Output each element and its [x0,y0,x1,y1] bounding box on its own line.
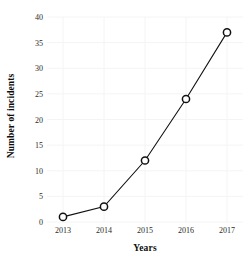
series-plot [47,17,243,222]
line-chart: Number of incidents 0510152025303540 201… [0,0,251,263]
y-axis-tick-labels: 0510152025303540 [22,0,46,240]
y-axis-title-label: Number of incidents [6,74,16,159]
y-tick-label: 5 [39,192,43,201]
data-point-marker [141,157,148,164]
y-tick-label: 15 [35,141,43,150]
y-tick-label: 20 [35,115,43,124]
data-point-marker [182,95,189,102]
y-tick-label: 0 [39,218,43,227]
x-tick-label: 2013 [55,226,71,235]
x-tick-label: 2015 [137,226,153,235]
data-point-marker [59,213,66,220]
gridlines [47,17,243,222]
x-tick-label: 2016 [178,226,194,235]
x-axis-tick-labels: 20132014201520162017 [47,226,243,240]
y-tick-label: 40 [35,13,43,22]
y-axis-title: Number of incidents [0,0,22,232]
plot-area [47,17,243,222]
y-tick-label: 30 [35,64,43,73]
x-tick-label: 2017 [219,226,235,235]
y-tick-label: 10 [35,166,43,175]
x-tick-label: 2014 [96,226,112,235]
x-axis-title: Years [47,243,243,253]
y-tick-label: 25 [35,89,43,98]
data-point-marker [100,203,107,210]
data-point-marker [223,29,230,36]
y-tick-label: 35 [35,38,43,47]
